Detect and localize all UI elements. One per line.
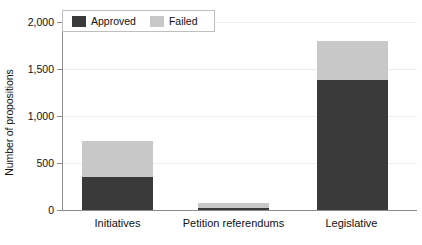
y-tick-mark-1000 xyxy=(57,116,62,117)
y-tick-mark-1500 xyxy=(57,69,62,70)
x-category-label-initiatives: Initiatives xyxy=(62,217,173,229)
bar-initiatives[interactable] xyxy=(82,141,153,210)
y-tick-mark-0 xyxy=(57,210,62,211)
y-tick-label-1000: 1,000 xyxy=(10,110,54,122)
x-axis-line xyxy=(62,210,417,211)
stacked-bar-chart: Number of propositions 2,000 1,500 1,000… xyxy=(0,0,422,245)
legend-swatch-approved-icon xyxy=(72,16,86,27)
legend: Approved Failed xyxy=(62,10,215,32)
x-category-label-legislative: Legislative xyxy=(296,217,407,229)
bar-petition-referendums[interactable] xyxy=(198,203,269,210)
y-axis-line xyxy=(62,10,63,211)
bar-segment-failed[interactable] xyxy=(82,141,153,177)
bar-segment-failed[interactable] xyxy=(317,41,388,80)
bar-segment-approved[interactable] xyxy=(198,208,269,210)
y-tick-label-500: 500 xyxy=(10,157,54,169)
x-category-label-petition-referendums: Petition referendums xyxy=(178,217,289,229)
y-tick-label-0: 0 xyxy=(10,204,54,216)
bar-segment-approved[interactable] xyxy=(82,177,153,210)
legend-label-approved: Approved xyxy=(91,15,136,27)
y-tick-mark-500 xyxy=(57,163,62,164)
y-tick-label-1500: 1,500 xyxy=(10,63,54,75)
bar-legislative[interactable] xyxy=(317,41,388,210)
legend-item-failed[interactable]: Failed xyxy=(150,15,205,27)
legend-label-failed: Failed xyxy=(169,15,198,27)
legend-swatch-failed-icon xyxy=(150,16,164,27)
y-tick-label-2000: 2,000 xyxy=(10,16,54,28)
legend-item-approved[interactable]: Approved xyxy=(72,15,143,27)
bar-segment-approved[interactable] xyxy=(317,80,388,210)
